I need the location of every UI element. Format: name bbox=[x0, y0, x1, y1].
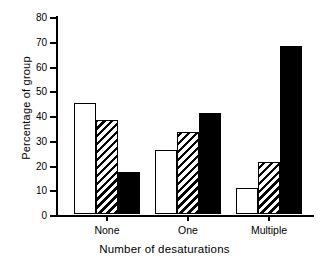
bar-one-black bbox=[199, 113, 221, 214]
x-axis-line bbox=[56, 215, 314, 217]
y-axis-line bbox=[56, 16, 58, 217]
y-axis-tick bbox=[50, 166, 56, 168]
bar-multiple-black bbox=[280, 46, 302, 214]
bar-multiple-white bbox=[236, 188, 258, 214]
bar-one-white bbox=[155, 150, 177, 214]
bar-group bbox=[155, 14, 221, 214]
bar-none-white bbox=[74, 103, 96, 214]
y-axis-tick bbox=[50, 17, 56, 19]
x-axis-label-one: One bbox=[178, 224, 198, 236]
x-axis-label-multiple: Multiple bbox=[251, 224, 287, 236]
y-axis-tick-label: 40 bbox=[36, 112, 47, 122]
bar-multiple-hatched bbox=[258, 162, 280, 214]
bar-none-black bbox=[118, 172, 140, 214]
y-axis-tick bbox=[50, 91, 56, 93]
y-axis-title: Percentage of group bbox=[20, 28, 32, 188]
y-axis-tick-label: 60 bbox=[36, 63, 47, 73]
y-axis-tick-label: 10 bbox=[36, 186, 47, 196]
x-axis-tick bbox=[187, 215, 189, 221]
bar-none-hatched bbox=[96, 120, 118, 214]
y-axis-tick bbox=[50, 141, 56, 143]
y-axis-tick-label: 0 bbox=[41, 211, 47, 221]
bar-group bbox=[74, 14, 140, 214]
y-axis-tick bbox=[50, 215, 56, 217]
x-axis-tick bbox=[268, 215, 270, 221]
y-axis-tick-label: 50 bbox=[36, 87, 47, 97]
y-axis-tick-label: 80 bbox=[36, 13, 47, 23]
y-axis-tick bbox=[50, 67, 56, 69]
bar-group bbox=[236, 14, 302, 214]
x-axis-label-none: None bbox=[94, 224, 119, 236]
bar-chart-figure: Percentage of group 01020304050607080 No… bbox=[0, 0, 329, 267]
y-axis-tick bbox=[50, 190, 56, 192]
bar-one-hatched bbox=[177, 132, 199, 214]
y-axis-tick bbox=[50, 42, 56, 44]
y-axis-tick-label: 30 bbox=[36, 137, 47, 147]
y-axis-tick-label: 20 bbox=[36, 162, 47, 172]
plot-area: 01020304050607080 NoneOneMultiple bbox=[56, 16, 314, 216]
x-axis-tick bbox=[106, 215, 108, 221]
x-axis-title: Number of desaturations bbox=[0, 243, 329, 255]
y-axis-tick-label: 70 bbox=[36, 38, 47, 48]
y-axis-tick bbox=[50, 116, 56, 118]
